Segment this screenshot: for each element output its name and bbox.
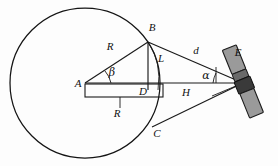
label-distance-d: d — [193, 44, 199, 56]
label-point-c: C — [153, 127, 161, 139]
label-point-b: B — [149, 21, 156, 33]
label-point-e: E — [234, 46, 242, 58]
baseline-band-rect — [85, 84, 163, 97]
label-length-l: L — [157, 52, 164, 64]
label-point-a: A — [74, 77, 82, 89]
label-baseline-r: R — [113, 107, 121, 119]
label-radius-r: R — [106, 40, 114, 52]
label-angle-beta: β — [108, 66, 115, 79]
geometry-figure: A B C D E R R L d H β α — [0, 0, 278, 166]
label-point-d: D — [138, 85, 147, 97]
label-height-h: H — [181, 86, 191, 98]
label-angle-alpha: α — [202, 69, 210, 82]
solar-panel-lower — [240, 88, 264, 118]
satellite-group — [221, 44, 264, 118]
diagram-canvas: A B C D E R R L d H β α — [0, 0, 278, 166]
segment-ce-lower-ray — [152, 83, 243, 127]
segment-ab-radius — [85, 42, 148, 83]
